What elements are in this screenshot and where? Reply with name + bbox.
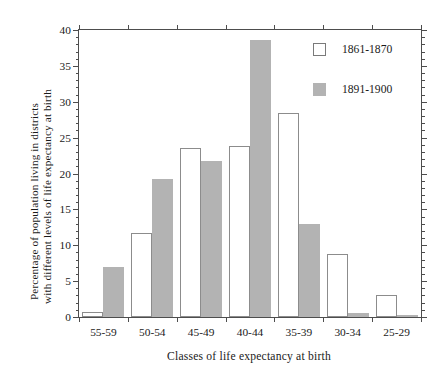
y-axis-title: Percentage of population living in distr… (0, 0, 44, 340)
y-tick-28 (76, 116, 80, 117)
y-tick-right-37 (421, 52, 425, 53)
y-tick-23 (76, 152, 80, 153)
legend-label-1: 1861-1870 (342, 43, 392, 56)
y-tick-18 (76, 188, 80, 189)
y-tick-20 (73, 174, 79, 175)
y-tick-1 (76, 310, 80, 311)
y-tick-right-33 (421, 80, 425, 81)
y-tick-5 (73, 281, 79, 282)
y-tick-right-4 (421, 288, 425, 289)
y-tick-right-39 (421, 37, 425, 38)
legend-item-1861-1870[interactable]: 1861-1870 (313, 37, 413, 61)
bar-30-34-1861-1870 (327, 254, 348, 317)
y-tick-38 (76, 44, 80, 45)
y-axis-title-line-2: with different levels of life expectancy… (41, 89, 53, 304)
y-tick-right-38 (421, 44, 425, 45)
y-tick-right-24 (421, 145, 425, 146)
y-tick-12 (76, 231, 80, 232)
y-tick-35 (73, 66, 79, 67)
bar-35-39-1861-1870 (278, 113, 299, 317)
x-tick-edge-top-2 (177, 25, 178, 30)
x-tick-edge-top-0 (79, 25, 80, 30)
y-tick-25 (73, 138, 79, 139)
y-tick-right-18 (421, 188, 425, 189)
x-tick-edge-6 (372, 317, 373, 322)
x-tick-label-50-54: 50-54 (139, 326, 166, 338)
y-tick-4 (76, 288, 80, 289)
y-tick-right-21 (421, 166, 425, 167)
y-tick-right-15 (421, 209, 427, 210)
legend: 1861-1870 1891-1900 (313, 37, 413, 101)
y-tick-right-10 (421, 245, 427, 246)
x-tick-edge-top-3 (226, 25, 227, 30)
x-tick-label-40-44: 40-44 (237, 326, 264, 338)
y-tick-label-40: 40 (60, 24, 71, 36)
y-tick-right-17 (421, 195, 425, 196)
y-tick-30 (73, 102, 79, 103)
bar-40-44-1891-1900 (250, 40, 271, 317)
y-tick-right-16 (421, 202, 425, 203)
y-tick-right-2 (421, 303, 425, 304)
x-tick-edge-last (421, 317, 422, 322)
y-tick-24 (76, 145, 80, 146)
bar-45-49-1861-1870 (180, 148, 201, 317)
y-tick-label-30: 30 (60, 96, 71, 108)
y-tick-right-12 (421, 231, 425, 232)
x-tick-label-30-34: 30-34 (334, 326, 361, 338)
bar-25-29-1891-1900 (397, 315, 418, 317)
y-tick-label-20: 20 (60, 168, 71, 180)
y-tick-40 (73, 30, 79, 31)
y-tick-27 (76, 123, 80, 124)
x-tick-edge-0 (79, 317, 80, 322)
y-tick-3 (76, 295, 80, 296)
y-tick-right-28 (421, 116, 425, 117)
bar-35-39-1891-1900 (299, 224, 320, 317)
y-tick-32 (76, 87, 80, 88)
x-tick-edge-top-5 (323, 25, 324, 30)
y-tick-right-9 (421, 252, 425, 253)
y-tick-26 (76, 130, 80, 131)
y-tick-right-27 (421, 123, 425, 124)
y-tick-6 (76, 274, 80, 275)
y-tick-label-10: 10 (60, 239, 71, 251)
y-tick-31 (76, 95, 80, 96)
bar-50-54-1861-1870 (131, 233, 152, 317)
y-tick-29 (76, 109, 80, 110)
y-tick-right-19 (421, 181, 425, 182)
x-tick-edge-2 (177, 317, 178, 322)
y-tick-16 (76, 202, 80, 203)
y-tick-right-36 (421, 59, 425, 60)
legend-swatch-filled-icon (313, 83, 326, 96)
y-tick-right-29 (421, 109, 425, 110)
y-tick-19 (76, 181, 80, 182)
x-tick-edge-last-top (421, 25, 422, 30)
y-tick-right-35 (421, 66, 427, 67)
y-tick-right-32 (421, 87, 425, 88)
y-tick-37 (76, 52, 80, 53)
x-tick-edge-3 (226, 317, 227, 322)
y-tick-right-8 (421, 260, 425, 261)
legend-item-1891-1900[interactable]: 1891-1900 (313, 77, 413, 101)
bar-55-59-1861-1870 (82, 312, 103, 317)
y-tick-right-6 (421, 274, 425, 275)
y-tick-label-0: 0 (65, 311, 71, 323)
y-tick-right-13 (421, 224, 425, 225)
y-tick-39 (76, 37, 80, 38)
y-tick-11 (76, 238, 80, 239)
y-tick-right-22 (421, 159, 425, 160)
bar-25-29-1861-1870 (376, 295, 397, 317)
y-tick-34 (76, 73, 80, 74)
y-tick-10 (73, 245, 79, 246)
y-tick-17 (76, 195, 80, 196)
y-tick-13 (76, 224, 80, 225)
y-tick-right-7 (421, 267, 425, 268)
y-tick-right-40 (421, 30, 427, 31)
y-tick-right-20 (421, 174, 427, 175)
y-tick-right-1 (421, 310, 425, 311)
y-tick-right-14 (421, 217, 425, 218)
y-tick-label-15: 15 (60, 203, 71, 215)
legend-label-2: 1891-1900 (342, 83, 392, 96)
y-tick-21 (76, 166, 80, 167)
y-tick-right-31 (421, 95, 425, 96)
y-tick-33 (76, 80, 80, 81)
